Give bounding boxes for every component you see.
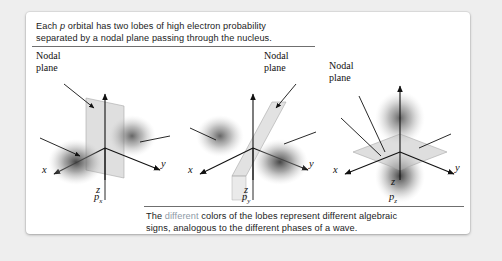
orbital-label-py-sub: y (247, 197, 250, 205)
top-divider (32, 46, 315, 47)
nodal-plane-label: Nodal plane (36, 50, 60, 73)
orbital-lobe-front (48, 139, 104, 185)
axis-label-x: x (42, 164, 47, 175)
axis-label-x: x (188, 164, 193, 175)
nodal-plane-leader (64, 84, 94, 108)
bottom-divider (144, 206, 464, 207)
top-caption: Each p orbital has two lobes of high ele… (36, 20, 336, 45)
orbital-label-pz-sub: z (394, 197, 397, 205)
orbital-label-px-sub: x (99, 197, 102, 205)
orbital-label-py: py (242, 191, 250, 205)
bottom-caption-accent-word: different (165, 211, 199, 221)
axis-label-x: x (333, 164, 338, 175)
axis-label-y: y (309, 158, 314, 169)
nodal-plane-label: Nodal plane (264, 50, 288, 73)
diagram-p-x: Nodal plane z y x px (28, 52, 178, 204)
figure-card: Each p orbital has two lobes of high ele… (26, 12, 470, 234)
axis-label-y: y (455, 162, 460, 173)
lobe-leader-right (284, 132, 316, 144)
top-caption-lead: Each (36, 21, 60, 31)
bottom-caption: The different colors of the lobes repres… (146, 210, 456, 235)
orbital-lobe-back (196, 115, 244, 157)
lobe-leader-right (419, 134, 451, 148)
orbital-label-px: px (94, 191, 102, 205)
nodal-plane-leader (276, 84, 296, 108)
bottom-caption-lead: The (146, 211, 165, 221)
diagram-p-y: Nodal plane z y x py (176, 52, 326, 204)
top-caption-rest: orbital has two lobes of high electron p… (36, 21, 272, 43)
axis-label-z: z (391, 176, 395, 187)
nodal-plane-label: Nodal plane (329, 60, 353, 83)
diagram-p-z: Nodal plane z y x pz (323, 52, 473, 204)
orbital-lobe-back (108, 115, 156, 157)
orbital-label-pz: pz (389, 191, 397, 205)
orbital-lobe-front (252, 139, 308, 185)
axis-label-y: y (161, 158, 166, 169)
